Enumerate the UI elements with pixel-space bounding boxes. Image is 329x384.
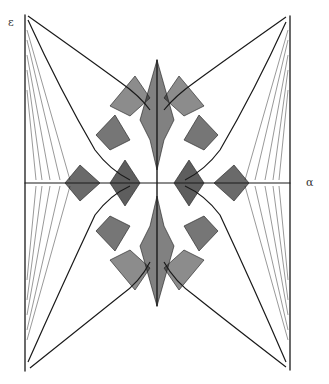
right-fan bbox=[245, 30, 288, 340]
y-axis-label: ε bbox=[8, 16, 14, 29]
left-fan bbox=[27, 30, 70, 340]
x-axis-label: α bbox=[306, 176, 313, 189]
butterfly-diagram bbox=[0, 0, 329, 384]
